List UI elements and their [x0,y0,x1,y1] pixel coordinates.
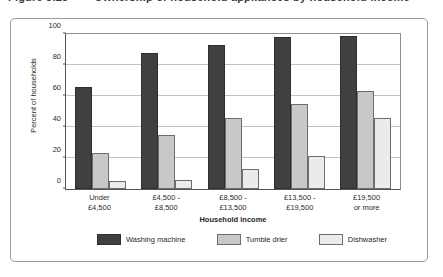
bar [242,169,259,189]
bar [274,37,291,189]
x-axis-tick-label-line: £8,500 - [200,193,267,203]
figure-caption-strip: Figure 3.23Ownership of household applia… [0,0,443,13]
bar [92,153,109,189]
y-axis-tick-label: 20 [53,145,61,154]
x-axis-tick-label-line: £19,500 [266,203,333,213]
legend-swatch [97,234,121,245]
x-axis-tick-label: £19,500or more [333,193,400,212]
bar [225,118,242,189]
legend-entry: Dishwasher [319,234,387,245]
bar [158,135,175,189]
x-axis-tick-label-line: £13,500 - [266,193,333,203]
figure-caption-number: Figure 3.23 [8,0,68,3]
legend-entry: Tumble drier [217,234,288,245]
y-axis-tick-label: 40 [53,114,61,123]
legend-label: Tumble drier [246,235,288,244]
legend-label: Washing machine [126,235,185,244]
bar [175,180,192,189]
plot-area: 020406080100 [65,33,401,190]
y-axis-tick-mark [63,188,66,189]
x-axis-tick-label-line: £19,500 [333,193,400,203]
legend-label: Dishwasher [348,235,387,244]
x-axis-tick-label: Under£4,500 [66,193,133,212]
bar-group [67,34,133,189]
y-axis-title: Percent of households [29,36,38,156]
legend-swatch [217,234,241,245]
y-axis-tick-label: 100 [48,21,61,30]
figure-caption-title: Ownership of household appliances by hou… [94,0,410,3]
y-axis-tick-label: 80 [53,52,61,61]
y-axis-tick-label: 60 [53,83,61,92]
x-axis-tick-label-line: or more [333,203,400,213]
bar [141,53,158,189]
x-axis-title: Household income [66,215,400,224]
bar [208,45,225,189]
y-axis-tick-label: 0 [57,176,61,185]
bar-group [200,34,266,189]
bar [291,104,308,189]
figure-frame: Percent of households 020406080100 Under… [10,18,428,262]
x-axis-tick-label-line: £4,500 - [133,193,200,203]
bar [374,118,391,189]
legend-entry: Washing machine [97,234,185,245]
x-axis-tick-label: £4,500 -£8,500 [133,193,200,212]
bar [340,36,357,189]
x-axis-tick-label: £13,500 -£19,500 [266,193,333,212]
x-axis-tick-label: £8,500 -£13,500 [200,193,267,212]
x-axis-tick-label-line: £8,500 [133,203,200,213]
x-axis-tick-labels: Under£4,500£4,500 -£8,500£8,500 -£13,500… [66,193,400,212]
x-axis-tick-label-line: £13,500 [200,203,267,213]
bar-group [266,34,332,189]
figure-caption: Figure 3.23Ownership of household applia… [8,0,410,3]
bar [308,156,325,189]
x-axis-tick-label-line: £4,500 [66,203,133,213]
bar [75,87,92,189]
chart-legend: Washing machineTumble drierDishwasher [97,234,387,245]
bar-group [333,34,399,189]
y-axis-tick-mark [63,33,66,34]
legend-swatch [319,234,343,245]
x-axis-tick-label-line: Under [66,193,133,203]
bar-groups [67,34,399,189]
bar-group [133,34,199,189]
bar [109,181,126,189]
bar [357,91,374,189]
chart-container: Percent of households 020406080100 Under… [11,19,429,263]
